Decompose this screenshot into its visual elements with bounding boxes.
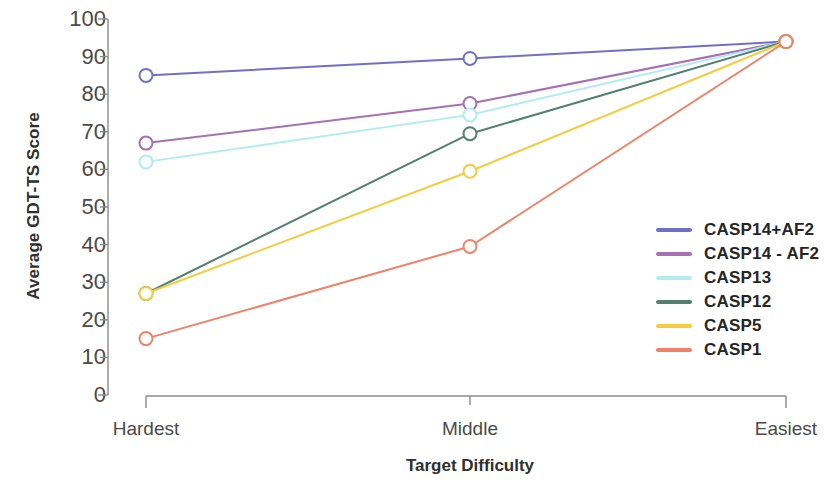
legend-item-label: CASP13 bbox=[704, 268, 771, 288]
legend-color-swatch bbox=[656, 252, 692, 256]
legend-item[interactable]: CASP13 bbox=[656, 266, 819, 290]
data-point-marker bbox=[464, 165, 477, 178]
data-point-marker bbox=[140, 332, 153, 345]
legend-item-label: CASP14+AF2 bbox=[704, 220, 814, 240]
legend-item[interactable]: CASP12 bbox=[656, 290, 819, 314]
legend-item-label: CASP14 - AF2 bbox=[704, 244, 819, 264]
chart-root: Average GDT-TS Score Target Difficulty 1… bbox=[0, 0, 824, 484]
data-point-marker bbox=[140, 137, 153, 150]
legend-color-swatch bbox=[656, 276, 692, 280]
data-point-marker bbox=[464, 108, 477, 121]
data-point-marker bbox=[140, 155, 153, 168]
legend-color-swatch bbox=[656, 228, 692, 232]
legend-item-label: CASP5 bbox=[704, 316, 762, 336]
legend-color-swatch bbox=[656, 348, 692, 352]
legend-item[interactable]: CASP1 bbox=[656, 338, 819, 362]
series-casp14-af2 bbox=[140, 35, 793, 82]
data-point-marker bbox=[780, 35, 793, 48]
data-point-marker bbox=[464, 52, 477, 65]
data-point-marker bbox=[464, 127, 477, 140]
legend-item[interactable]: CASP14+AF2 bbox=[656, 218, 819, 242]
legend-item-label: CASP12 bbox=[704, 292, 771, 312]
legend-color-swatch bbox=[656, 324, 692, 328]
legend-item[interactable]: CASP14 - AF2 bbox=[656, 242, 819, 266]
legend-color-swatch bbox=[656, 300, 692, 304]
legend-item[interactable]: CASP5 bbox=[656, 314, 819, 338]
data-point-marker bbox=[140, 69, 153, 82]
data-point-marker bbox=[140, 287, 153, 300]
legend-item-label: CASP1 bbox=[704, 340, 762, 360]
data-point-marker bbox=[464, 240, 477, 253]
chart-legend: CASP14+AF2CASP14 - AF2CASP13CASP12CASP5C… bbox=[656, 218, 819, 362]
